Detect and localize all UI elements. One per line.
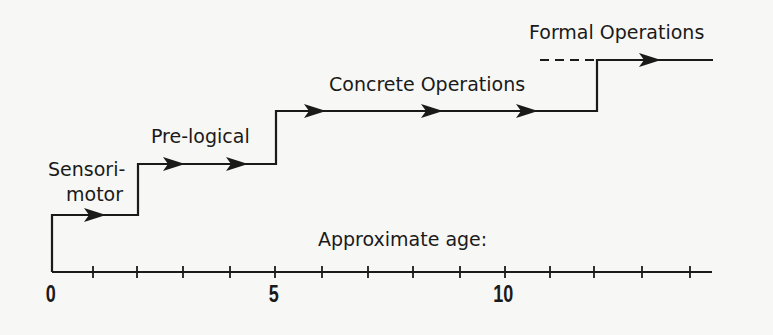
stage-label-prelogical: Pre-logical: [151, 127, 250, 146]
stage-label-sensorimotor-line1: Sensori-: [48, 160, 125, 179]
axis-label: Approximate age:: [318, 230, 487, 249]
stage-label-formal-operations: Formal Operations: [529, 23, 704, 42]
tick-label-10: 10: [493, 282, 513, 306]
tick-label-5: 5: [269, 282, 279, 306]
stage-label-sensorimotor-line2: motor: [66, 185, 123, 204]
tick-label-0: 0: [46, 282, 56, 306]
stage-label-concrete-operations: Concrete Operations: [329, 75, 525, 94]
